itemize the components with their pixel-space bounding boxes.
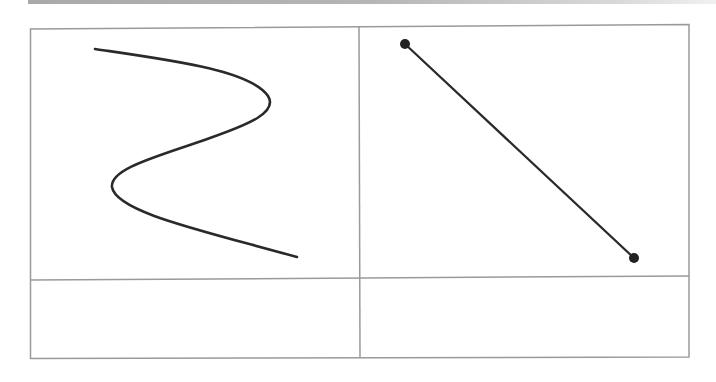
endpoint-end-dot xyxy=(629,253,639,263)
cell-top-left xyxy=(95,49,297,257)
cell-bottom-left xyxy=(32,282,358,357)
grid-table xyxy=(31,25,690,359)
cell-bottom-right xyxy=(361,278,688,356)
s-curve xyxy=(95,49,297,257)
line-segment xyxy=(405,44,634,258)
diagram-canvas xyxy=(0,0,716,382)
grid-vertical-divider xyxy=(359,27,360,358)
cell-top-right xyxy=(400,39,639,263)
endpoint-start-dot xyxy=(400,39,410,49)
